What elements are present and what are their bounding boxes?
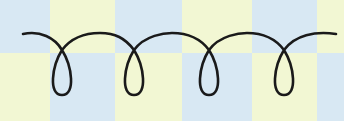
- checker-cell: [115, 0, 182, 53]
- checker-cell: [317, 0, 344, 53]
- checker-cell: [317, 53, 344, 121]
- checker-cell: [0, 0, 50, 53]
- checker-cell: [50, 53, 115, 121]
- figure: [0, 0, 344, 121]
- checker-cell: [252, 0, 317, 53]
- figure-canvas: [0, 0, 344, 121]
- checker-cell: [252, 53, 317, 121]
- checker-cell: [0, 53, 50, 121]
- checker-cell: [182, 0, 252, 53]
- checkerboard-background: [0, 0, 344, 121]
